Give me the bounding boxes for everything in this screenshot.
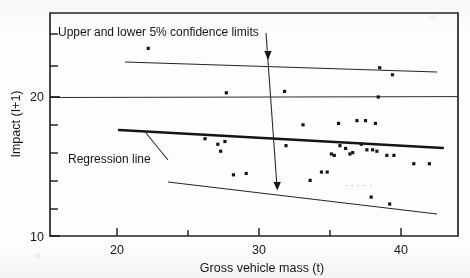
data-point <box>391 73 394 76</box>
data-point <box>371 148 374 151</box>
regression-line <box>119 130 443 148</box>
y-tick-label-20: 20 <box>30 90 44 104</box>
lower-confidence-limit-line <box>168 182 437 214</box>
data-point <box>412 162 415 165</box>
confidence-span-arrow <box>264 33 281 191</box>
data-point <box>333 154 336 157</box>
data-point <box>320 170 323 173</box>
data-point <box>388 202 391 205</box>
data-point <box>355 119 358 122</box>
data-point <box>378 66 381 69</box>
x-tick-label-40: 40 <box>394 243 408 257</box>
data-point <box>365 148 368 151</box>
scatter-plot: 20 10 20 30 40 Gross vehicle mass (t) Im… <box>0 0 470 278</box>
data-point <box>338 144 341 147</box>
y-axis-title: Impact (I+1) <box>9 90 23 157</box>
x-tick-label-20: 20 <box>110 243 124 257</box>
data-point <box>203 137 206 140</box>
data-point <box>392 154 395 157</box>
data-point <box>225 91 228 94</box>
data-point <box>147 47 150 50</box>
data-point <box>351 151 354 154</box>
data-point <box>309 179 312 182</box>
data-point <box>219 150 222 153</box>
x-tick-label-30: 30 <box>252 243 266 257</box>
data-point <box>223 140 226 143</box>
data-point <box>370 195 373 198</box>
confidence-limits-label: Upper and lower 5% confidence limits <box>58 25 259 39</box>
data-point <box>337 122 340 125</box>
scan-artifact-speckles <box>345 185 372 187</box>
arrowhead-lower <box>274 182 281 191</box>
data-point <box>284 144 287 147</box>
data-point <box>374 122 377 125</box>
data-point <box>245 172 248 175</box>
figure-container: 20 10 20 30 40 Gross vehicle mass (t) Im… <box>0 0 470 278</box>
y-tick-label-10: 10 <box>30 230 44 244</box>
data-point <box>377 95 380 98</box>
data-point <box>301 123 304 126</box>
upper-confidence-limit-line <box>125 62 437 72</box>
data-point <box>375 150 378 153</box>
data-point <box>348 152 351 155</box>
data-point <box>330 152 333 155</box>
data-point <box>364 119 367 122</box>
data-point <box>216 143 219 146</box>
y-axis-ticks <box>50 34 60 236</box>
data-point <box>344 147 347 150</box>
data-point <box>360 143 363 146</box>
data-point <box>232 173 235 176</box>
plot-frame <box>50 13 458 236</box>
gridline-at-20 <box>51 97 458 98</box>
x-axis-ticks <box>117 228 401 236</box>
arrowhead-upper <box>264 51 271 60</box>
data-point <box>326 170 329 173</box>
data-point <box>385 154 388 157</box>
gridline-group <box>51 97 458 98</box>
x-axis-title: Gross vehicle mass (t) <box>200 261 324 275</box>
data-point <box>428 162 431 165</box>
regression-line-label: Regression line <box>68 152 151 166</box>
axes-border <box>50 13 458 236</box>
data-point <box>283 90 286 93</box>
